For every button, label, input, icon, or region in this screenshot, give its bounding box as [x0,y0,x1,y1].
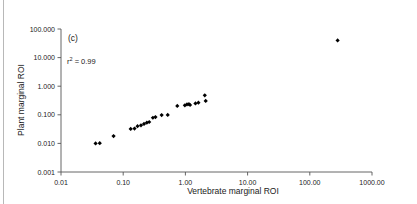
x-tick-label: 10.00 [239,179,257,186]
data-point [111,134,115,138]
data-point [166,113,170,117]
y-tick-label: 100.000 [30,26,55,33]
data-point [203,93,207,97]
data-point [94,141,98,145]
scatter-plot: 0.0010.0100.1001.00010.000100.0000.010.1… [0,0,417,204]
figure-panel: 0.0010.0100.1001.00010.000100.0000.010.1… [0,0,417,204]
data-point [160,113,164,117]
y-tick-label: 0.001 [37,169,55,176]
ticks-group: 0.0010.0100.1001.00010.000100.0000.010.1… [30,26,385,186]
data-point [175,104,179,108]
x-tick-label: 0.01 [54,179,68,186]
data-point [204,99,208,103]
x-tick-label: 0.10 [116,179,130,186]
data-point [129,127,133,131]
r-squared-annotation: r2 = 0.99 [67,56,96,66]
data-point [336,38,340,42]
data-point [132,126,136,130]
x-tick-label: 100.00 [299,179,321,186]
x-tick-label: 1000.00 [359,179,384,186]
r-value: = 0.99 [73,57,96,66]
data-point [196,101,200,105]
axes-group [61,29,372,172]
y-tick-label: 10.000 [34,54,56,61]
data-points-group [94,38,340,145]
y-axis-title: Plant marginal ROI [16,64,26,136]
data-point [98,141,102,145]
panel-label: (c) [68,33,78,43]
y-tick-label: 1.000 [37,83,55,90]
x-tick-label: 1.00 [179,179,193,186]
x-axis-title: Vertebrate marginal ROI [187,186,279,196]
y-tick-label: 0.100 [37,111,55,118]
data-point [135,124,139,128]
axis-spines [61,29,372,172]
data-point [193,101,197,105]
y-tick-label: 0.010 [37,140,55,147]
